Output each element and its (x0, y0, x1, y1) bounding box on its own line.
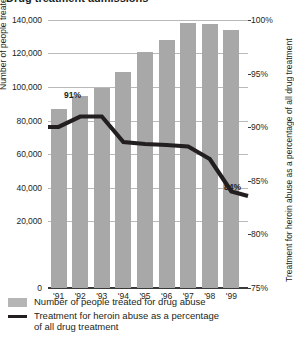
y-right-tick-100: 100% (251, 20, 273, 30)
y-right-tick-85: 85% (251, 181, 268, 191)
legend-line-label: Treatment for heroin abuse as a percenta… (34, 310, 219, 332)
y-left-tick-20000: 20,000 (17, 221, 42, 231)
legend-line-label-row1: Treatment for heroin abuse as a percenta… (34, 310, 219, 321)
data-label-84pct: 84% (224, 182, 241, 192)
data-label-91pct: 91% (64, 90, 81, 100)
legend-item-bars: Number of people treated for drug abuse (8, 296, 294, 307)
y-right-tick-95: 95% (251, 74, 268, 84)
y-left-tick-140000: 140,000 (12, 20, 42, 30)
y-right-tick-90: 90% (251, 127, 268, 137)
legend-item-line: Treatment for heroin abuse as a percenta… (8, 310, 294, 332)
y-left-tick-100000: 100,000 (12, 87, 42, 97)
y-left-tick-120000: 120,000 (12, 53, 42, 63)
chart-figure: Drug treatment admissions 140,000 120,00… (0, 0, 294, 339)
y-left-axis-title: Number of people treated (0, 0, 8, 90)
y-left-tick-80000: 80,000 (17, 121, 42, 131)
y-left-tick-60000: 60,000 (17, 154, 42, 164)
legend-bar-label: Number of people treated for drug abuse (34, 296, 206, 307)
legend-line-swatch-icon (8, 315, 27, 318)
y-right-tick-80: 80% (251, 234, 268, 244)
legend-bar-swatch-icon (8, 298, 27, 307)
chart-title: Drug treatment admissions (0, 0, 294, 6)
y-left-tick-40000: 40,000 (17, 188, 42, 198)
legend-line-label-row2: of all drug treatment (34, 321, 219, 332)
heroin-percentage-line (48, 20, 248, 288)
y-right-axis-title: Treatment for heroin abuse as a percenta… (285, 2, 294, 282)
plot-area (48, 20, 248, 288)
chart-legend: Number of people treated for drug abuse … (8, 296, 294, 335)
